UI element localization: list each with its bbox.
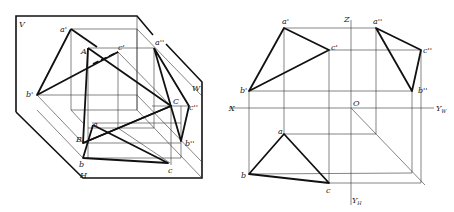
axis-label-yw: YW <box>436 104 447 114</box>
label-front-a: a' <box>282 17 289 26</box>
v-projection-triangle <box>37 29 118 95</box>
label-b: b <box>79 160 84 169</box>
orthographic-view: X Z O YW YH a' b' c' a'' c'' b'' a b c <box>228 15 447 206</box>
axonometric-view: V W a' b' c' A B C a b c a'' c'' b'' H <box>16 16 202 180</box>
origin-label: O <box>353 99 360 108</box>
label-front-c: c' <box>331 43 338 52</box>
top-view-triangle <box>249 134 329 183</box>
v-projection-edge-ac-hidden <box>71 29 97 47</box>
axis-label-z: Z <box>343 15 350 24</box>
label-top-a: a <box>278 127 283 136</box>
label-A: A <box>80 47 87 56</box>
plane-label-w: W <box>192 84 201 93</box>
front-view-triangle <box>249 28 329 91</box>
side-view-triangle <box>376 28 421 91</box>
plane-label-v: V <box>19 20 26 29</box>
h-projection-triangle <box>83 125 168 163</box>
label-top-c: c <box>326 186 331 195</box>
label-a-prime: a' <box>60 25 67 34</box>
label-side-b: b'' <box>418 86 428 95</box>
label-B: B <box>75 135 82 144</box>
axis-label-x: X <box>228 104 235 113</box>
projection-figure: V W a' b' c' A B C a b c a'' c'' b'' H <box>0 0 454 212</box>
plane-label-h: H <box>79 171 88 180</box>
label-side-c: c'' <box>423 46 432 55</box>
label-side-a: a'' <box>373 17 382 26</box>
label-C: C <box>173 97 179 106</box>
label-c-double-prime: c'' <box>189 103 198 112</box>
label-front-b: b' <box>240 86 247 95</box>
label-a: a <box>93 120 98 129</box>
label-a-double-prime: a'' <box>155 38 164 47</box>
axis-label-yh: YH <box>352 196 362 206</box>
label-top-b: b <box>241 171 246 180</box>
label-c-prime: c' <box>118 43 125 52</box>
label-c: c <box>168 166 173 175</box>
label-b-prime: b' <box>26 90 33 99</box>
label-b-double-prime: b'' <box>185 139 195 148</box>
